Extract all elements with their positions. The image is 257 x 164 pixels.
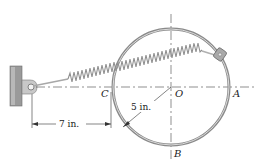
offset-label: 7 in. — [59, 119, 79, 129]
label-c: C — [101, 88, 109, 99]
radius-dimension: 5 in. — [123, 87, 171, 127]
label-b: B — [173, 148, 181, 159]
label-o: O — [175, 88, 183, 99]
offset-dimension: 7 in. — [32, 92, 111, 129]
pin-bracket — [22, 80, 37, 94]
radius-label: 5 in. — [131, 102, 151, 112]
spring-collar-diagram: 5 in. 7 in. C O A B — [0, 0, 257, 164]
wall-support — [10, 66, 22, 106]
label-a: A — [232, 88, 240, 99]
